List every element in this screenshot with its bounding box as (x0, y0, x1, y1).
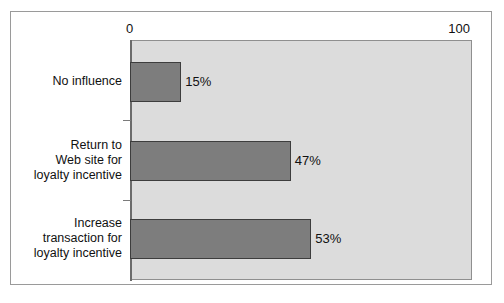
category-tick-2 (123, 200, 131, 201)
bar-value-increase-transaction: 53% (315, 232, 341, 246)
bar-value-return-to-web-site: 47% (295, 154, 321, 168)
axis-tick-label-min: 0 (126, 22, 133, 36)
category-label-line: No influence (10, 74, 122, 89)
category-label-line: Return to (10, 138, 122, 153)
category-label-line: loyalty incentive (10, 246, 122, 261)
chart-figure: 0 100 No influence 15% Return to Web sit… (0, 0, 504, 303)
bar-no-influence (130, 62, 181, 102)
category-label-line: Increase (10, 216, 122, 231)
category-label-line: transaction for (10, 231, 122, 246)
category-tick-1 (123, 120, 131, 121)
category-label-line: Web site for (10, 153, 122, 168)
category-label-line: loyalty incentive (10, 168, 122, 183)
category-label-return-to-web-site: Return to Web site for loyalty incentive (10, 138, 122, 183)
bar-value-no-influence: 15% (185, 75, 211, 89)
axis-tick-label-max: 100 (438, 22, 470, 36)
bar-return-to-web-site (130, 141, 291, 181)
category-label-no-influence: No influence (10, 74, 122, 89)
bar-increase-transaction (130, 219, 311, 259)
category-label-increase-transaction: Increase transaction for loyalty incenti… (10, 216, 122, 261)
